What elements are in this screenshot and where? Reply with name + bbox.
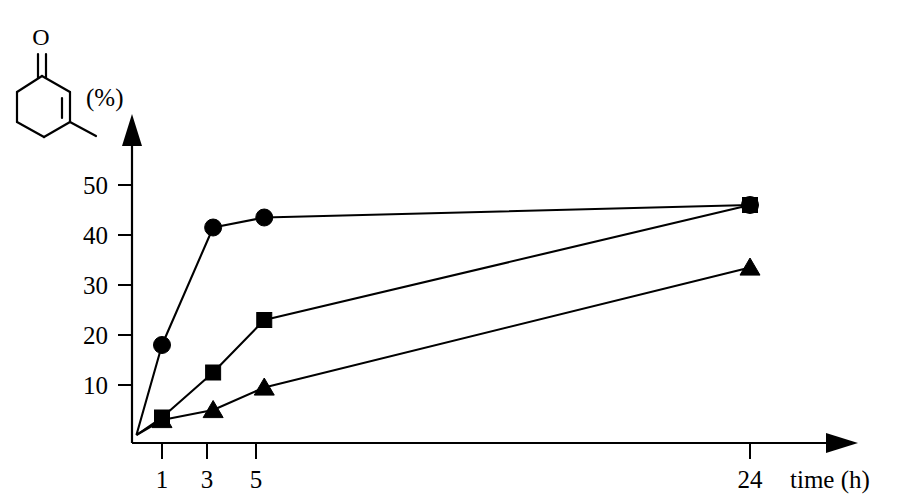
- methyl-bond: [70, 122, 96, 136]
- x-tick-label-3: 3: [201, 466, 214, 493]
- data-series-layer: [136, 197, 760, 436]
- square-marker: [257, 313, 272, 328]
- x-tick-label-24: 24: [738, 466, 764, 493]
- kinetics-figure: O (%) 5: [0, 0, 902, 504]
- x-tick-label-5: 5: [250, 466, 263, 493]
- y-tick-label-10: 10: [83, 372, 108, 399]
- y-tick-label-40: 40: [83, 222, 108, 249]
- square-marker: [206, 365, 221, 380]
- ring-bond-4: [44, 122, 70, 137]
- y-axis: 50 40 30 20 10: [83, 114, 142, 443]
- y-axis-unit-label: (%): [86, 84, 123, 112]
- circle-marker: [154, 337, 171, 354]
- y-axis-arrowhead: [122, 114, 142, 146]
- triangle-series: [136, 258, 760, 435]
- ring-bond-6: [42, 76, 70, 92]
- x-axis-title: time (h): [790, 466, 870, 494]
- oxygen-atom-label: O: [32, 24, 49, 50]
- ring-bond-3: [17, 122, 44, 137]
- circle-marker: [205, 219, 222, 236]
- ring-bond-1: [17, 76, 42, 92]
- circle-series: [136, 197, 758, 436]
- square-series: [136, 198, 757, 436]
- chart-canvas: O (%) 5: [0, 0, 902, 504]
- triangle-series-line: [136, 268, 750, 436]
- triangle-marker: [740, 258, 760, 275]
- circle-series-line: [136, 205, 750, 435]
- x-axis: 1 3 5 24 time (h): [132, 433, 870, 494]
- triangle-marker: [203, 401, 223, 418]
- molecule-structure: O: [17, 24, 96, 137]
- y-tick-label-30: 30: [83, 272, 108, 299]
- x-axis-arrowhead: [826, 433, 858, 453]
- square-marker: [743, 198, 758, 213]
- x-tick-label-1: 1: [156, 466, 169, 493]
- circle-marker: [256, 209, 273, 226]
- y-tick-label-50: 50: [83, 172, 108, 199]
- square-series-line: [136, 205, 750, 435]
- y-tick-label-20: 20: [83, 322, 108, 349]
